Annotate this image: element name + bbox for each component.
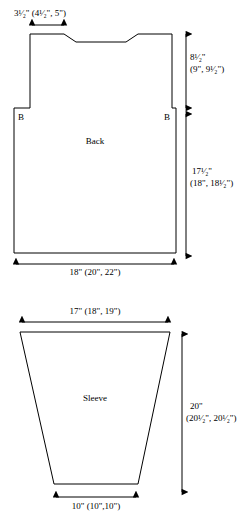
back-piece-label: Back — [55, 136, 135, 147]
sleeve-top-width-label: 17" (18", 19") — [25, 306, 165, 317]
back-body-length-label-line2: (18", 18¹⁄₂") — [190, 178, 250, 189]
schematic-drawing — [0, 0, 250, 526]
back-marker-left-b: B — [18, 112, 24, 122]
sleeve-bottom-width-label: 10" (10",10") — [56, 501, 136, 512]
sleeve-length-label-line2: (20¹⁄₂", 20¹⁄₂") — [186, 413, 250, 424]
back-shoulder-width-label: 3¹⁄₂" (4¹⁄₂", 5") — [14, 8, 134, 19]
back-marker-right-b: B — [164, 112, 170, 122]
back-armhole-depth-label-line2: (9", 9¹⁄₂") — [190, 64, 250, 75]
schematic-root: 3¹⁄₂" (4¹⁄₂", 5") 8¹⁄₂" (9", 9¹⁄₂") 17¹⁄… — [0, 0, 250, 526]
back-armhole-depth-label-line1: 8¹⁄₂" — [190, 52, 250, 63]
back-body-length-label-line1: 17¹⁄₂" — [192, 166, 250, 177]
sleeve-piece-label: Sleeve — [55, 393, 135, 404]
sleeve-length-label-line1: 20" — [190, 401, 248, 412]
back-bottom-width-label: 18" (20", 22") — [15, 267, 175, 278]
sleeve-piece-outline — [20, 332, 170, 484]
